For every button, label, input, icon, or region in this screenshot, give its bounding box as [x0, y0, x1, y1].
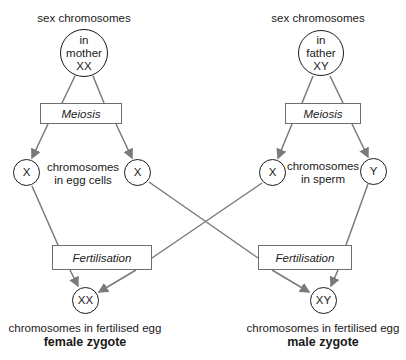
egg-caption-line1: chromosomes — [44, 161, 122, 174]
male-zygote-caption: chromosomes in fertilised egg — [240, 322, 406, 335]
sperm-y-circle: Y — [360, 158, 387, 185]
female-zygote-circle: XX — [72, 287, 99, 314]
mother-meiosis-label: Meiosis — [62, 108, 101, 120]
sperm-caption-line1: chromosomes — [284, 160, 362, 173]
mother-circle-line2: mother — [66, 47, 102, 60]
sperm-caption-line2: in sperm — [284, 173, 362, 186]
mother-chromosome-circle: in mother XX — [60, 29, 108, 77]
male-zygote-type: male zygote — [240, 336, 406, 349]
female-zygote-type: female zygote — [0, 336, 170, 349]
right-fertilisation-box: Fertilisation — [258, 245, 352, 270]
female-zygote-caption: chromosomes in fertilised egg — [0, 322, 170, 335]
sperm-x-circle: X — [259, 159, 286, 186]
egg-x-right-label: X — [134, 166, 142, 179]
mother-meiosis-box: Meiosis — [40, 103, 122, 124]
male-zygote-circle: XY — [310, 287, 337, 314]
father-circle-line3: XY — [313, 60, 328, 73]
egg-caption-line2: in egg cells — [44, 174, 122, 187]
father-chromosome-circle: in father XY — [298, 30, 344, 76]
sperm-y-label: Y — [370, 165, 378, 178]
egg-x-left-label: X — [23, 166, 31, 179]
father-meiosis-box: Meiosis — [285, 103, 361, 124]
egg-x-right-circle: X — [124, 159, 151, 186]
father-circle-line2: father — [306, 47, 335, 60]
mother-sex-chromosomes-label: sex chromosomes — [30, 12, 138, 25]
egg-cells-caption: chromosomes in egg cells — [44, 161, 122, 187]
father-sex-chromosomes-label: sex chromosomes — [264, 12, 372, 25]
egg-x-left-circle: X — [13, 159, 40, 186]
left-fertilisation-box: Fertilisation — [52, 245, 152, 270]
sperm-x-label: X — [269, 166, 277, 179]
sperm-caption: chromosomes in sperm — [284, 160, 362, 186]
male-zygote-label: XY — [316, 294, 331, 307]
mother-circle-line1: in — [80, 34, 89, 47]
female-zygote-label: XX — [78, 294, 93, 307]
father-circle-line1: in — [317, 34, 326, 47]
left-fertilisation-label: Fertilisation — [73, 252, 132, 264]
father-meiosis-label: Meiosis — [304, 108, 343, 120]
right-fertilisation-label: Fertilisation — [276, 252, 335, 264]
mother-circle-line3: XX — [76, 60, 91, 73]
